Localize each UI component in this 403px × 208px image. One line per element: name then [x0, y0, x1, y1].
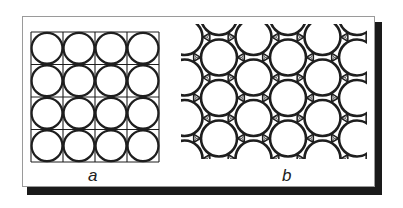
interstice-tripod-line — [367, 196, 369, 199]
interstice-triangle — [366, 114, 373, 123]
packed-circle — [64, 98, 95, 129]
interstice-tripod-line — [194, 176, 196, 179]
interstice-tripod-line — [311, 179, 313, 182]
packed-circle — [96, 33, 127, 64]
interstice-triangle — [375, 134, 382, 143]
packed-circle — [305, 181, 341, 207]
packed-circle — [201, 161, 237, 197]
interstice-tripod-line — [277, 159, 279, 162]
packed-circle — [167, 141, 203, 177]
panel-a-square-packing — [31, 32, 159, 162]
interstice-tripod-line — [367, 78, 369, 81]
packed-circle — [32, 65, 63, 96]
interstice-tripod-line — [380, 55, 382, 58]
interstice-triangle — [331, 12, 338, 21]
interstice-tripod-line — [367, 37, 369, 40]
packed-circle — [339, 161, 375, 197]
packed-circle — [201, 121, 237, 157]
interstice-tripod-line — [208, 159, 210, 162]
packed-circle — [32, 98, 63, 129]
packed-circle — [236, 100, 272, 136]
packed-circle — [339, 80, 375, 116]
packed-circle — [270, 40, 306, 76]
panel-a-label: a — [88, 167, 97, 184]
interstice-triangle — [237, 12, 244, 21]
interstice-tripod-line — [332, 17, 334, 20]
packed-circle — [339, 40, 375, 76]
interstice-inner — [332, 14, 337, 19]
interstice-tripod-line — [277, 199, 279, 202]
interstice-tripod-line — [367, 34, 369, 37]
packed-circle — [167, 0, 203, 15]
packed-circle — [270, 80, 306, 116]
interstice-tripod-line — [194, 14, 196, 17]
interstice-tripod-line — [298, 196, 300, 199]
interstice-tripod-line — [367, 156, 369, 159]
interstice-tripod-line — [229, 199, 231, 202]
packed-circle — [64, 130, 95, 161]
packed-circle — [305, 60, 341, 96]
interstice-triangle — [366, 73, 373, 82]
interstice-inner — [274, 196, 279, 201]
interstice-triangle — [375, 53, 382, 62]
interstice-tripod-line — [263, 17, 265, 20]
interstice-tripod-line — [380, 179, 382, 182]
interstice-inner — [367, 115, 372, 120]
interstice-tripod-line — [380, 14, 382, 17]
interstice-tripod-line — [367, 75, 369, 78]
interstice-tripod-line — [263, 176, 265, 179]
packed-circle — [96, 130, 127, 161]
interstice-tripod-line — [367, 199, 369, 202]
interstice-triangle — [306, 12, 313, 21]
interstice-triangle — [262, 12, 269, 21]
interstice-triangle — [375, 12, 382, 21]
interstice-inner — [377, 14, 382, 19]
interstice-inner — [377, 55, 382, 60]
interstice-inner — [239, 176, 244, 181]
interstice-triangle — [366, 33, 373, 42]
interstice-triangle — [341, 195, 348, 204]
interstice-tripod-line — [380, 95, 382, 98]
interstice-inner — [298, 196, 303, 201]
figure-canvas — [0, 0, 403, 207]
interstice-inner — [332, 176, 337, 181]
packed-circle — [236, 0, 272, 15]
packed-circle — [305, 141, 341, 177]
interstice-triangle — [366, 154, 373, 163]
packed-circle — [305, 0, 341, 15]
interstice-tripod-line — [277, 196, 279, 199]
interstice-tripod-line — [242, 176, 244, 179]
interstice-triangle — [203, 0, 210, 1]
packed-circle — [270, 121, 306, 157]
interstice-triangle — [228, 195, 235, 204]
interstice-triangle — [272, 0, 279, 1]
interstice-inner — [263, 176, 268, 181]
packed-circle — [305, 100, 341, 136]
interstice-tripod-line — [346, 159, 348, 162]
interstice-triangle — [341, 0, 348, 1]
interstice-tripod-line — [242, 17, 244, 20]
packed-circle — [32, 130, 63, 161]
packed-circle — [167, 19, 203, 55]
packed-circle — [339, 202, 375, 208]
packed-circle — [339, 121, 375, 157]
interstice-tripod-line — [311, 14, 313, 17]
interstice-inner — [367, 34, 372, 39]
packed-circle — [270, 202, 306, 208]
interstice-triangle — [193, 12, 200, 21]
packed-circle — [339, 0, 375, 35]
interstice-triangle — [331, 174, 338, 183]
interstice-inner — [263, 14, 268, 19]
panel-b-hexagonal-packing — [167, 0, 383, 207]
interstice-triangle — [306, 174, 313, 183]
interstice-tripod-line — [380, 138, 382, 141]
packed-circle — [64, 65, 95, 96]
interstice-tripod-line — [367, 118, 369, 121]
packed-circle — [128, 65, 159, 96]
interstice-inner — [343, 196, 348, 201]
interstice-triangle — [366, 195, 373, 204]
interstice-inner — [377, 95, 382, 100]
interstice-tripod-line — [242, 14, 244, 17]
panel-b-label: b — [282, 167, 291, 184]
interstice-tripod-line — [311, 176, 313, 179]
